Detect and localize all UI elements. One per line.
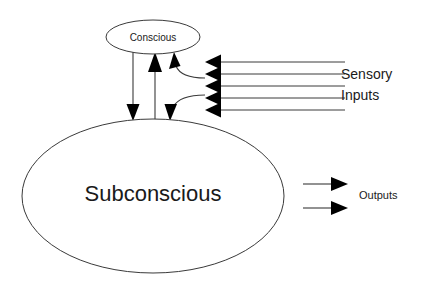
subconscious-label: Subconscious bbox=[85, 181, 222, 206]
sensory-input-arrowheads bbox=[205, 55, 221, 118]
sensory-arrow-icon-5 bbox=[205, 103, 221, 118]
conscious-label: Conscious bbox=[130, 32, 177, 43]
edge-sensory-to-subconscious bbox=[165, 95, 206, 121]
sensory-inputs-label-line2: Inputs bbox=[341, 87, 379, 103]
mind-model-diagram: Sensory Inputs Conscious bbox=[0, 0, 425, 289]
edge-curve-to-conscious bbox=[176, 66, 205, 78]
diagram-canvas: Sensory Inputs Conscious bbox=[0, 0, 425, 289]
output-arrow-icon-1 bbox=[331, 177, 348, 191]
output-arrow-icon-2 bbox=[331, 201, 348, 215]
sensory-arrow-icon-3 bbox=[205, 79, 221, 94]
sensory-arrow-icon-4 bbox=[205, 91, 221, 106]
edge-sensory-to-conscious bbox=[169, 52, 205, 78]
node-conscious[interactable]: Conscious bbox=[106, 20, 200, 54]
sensory-input-lines bbox=[218, 62, 345, 110]
node-subconscious[interactable]: Subconscious bbox=[22, 119, 284, 273]
arrow-curve-down-icon bbox=[165, 104, 178, 121]
arrow-curve-up-icon bbox=[169, 52, 181, 69]
edge-conscious-to-subconscious bbox=[127, 50, 140, 121]
edge-subconscious-to-conscious bbox=[148, 52, 162, 120]
outputs-label: Outputs bbox=[359, 189, 398, 201]
sensory-arrow-icon-2 bbox=[205, 67, 221, 82]
output-arrows bbox=[303, 177, 348, 215]
sensory-inputs-label-line1: Sensory bbox=[341, 66, 392, 82]
arrow-down-icon bbox=[127, 104, 140, 121]
sensory-arrow-icon-1 bbox=[205, 55, 221, 70]
edge-curve-to-subconscious bbox=[173, 95, 205, 107]
arrow-up-icon bbox=[148, 52, 162, 72]
